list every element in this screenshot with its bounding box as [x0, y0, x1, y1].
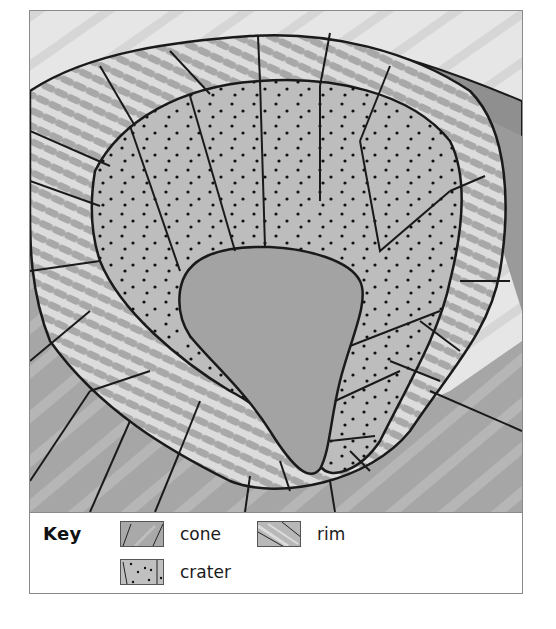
- legend-label-rim: rim: [317, 524, 345, 544]
- legend-item-crater: crater: [120, 559, 231, 585]
- legend-label-crater: crater: [180, 562, 231, 582]
- volcano-figure: Key cone rim: [29, 10, 523, 594]
- rim-swatch-icon: [257, 521, 301, 547]
- legend-item-rim: rim: [257, 521, 345, 547]
- legend: Key cone rim: [30, 513, 522, 593]
- crater-swatch-icon: [120, 559, 164, 585]
- volcano-illustration: [30, 11, 522, 513]
- legend-label-cone: cone: [180, 524, 221, 544]
- legend-title: Key: [43, 523, 81, 544]
- cone-swatch-icon: [120, 521, 164, 547]
- legend-item-cone: cone: [120, 521, 221, 547]
